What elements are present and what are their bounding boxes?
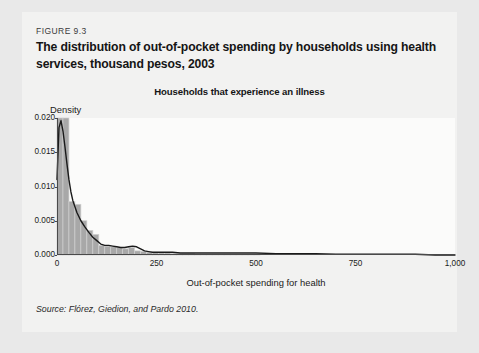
- x-tick-label: 500: [249, 259, 263, 268]
- y-axis-line: [57, 118, 58, 255]
- chart-subtitle: Households that experience an illness: [22, 86, 457, 97]
- y-tick-mark: [55, 152, 57, 153]
- y-axis-ticks: 0.0000.0050.0100.0150.020: [22, 12, 55, 332]
- y-tick-mark: [55, 255, 57, 256]
- x-axis-title: Out-of-pocket spending for health: [57, 277, 455, 288]
- y-tick-mark: [55, 187, 57, 188]
- y-tick-label: 0.000: [35, 250, 56, 259]
- density-curve: [57, 118, 455, 255]
- plot-area: [57, 118, 455, 255]
- y-tick-label: 0.015: [35, 147, 56, 156]
- y-tick-label: 0.010: [35, 182, 56, 191]
- y-tick-label: 0.020: [35, 113, 56, 122]
- x-tick-label: 1,000: [445, 259, 466, 268]
- density-curve-path: [57, 121, 455, 255]
- y-tick-mark: [55, 221, 57, 222]
- x-axis-line: [57, 254, 455, 255]
- chart-container: Households that experience an illness De…: [22, 12, 457, 332]
- x-tick-label: 0: [55, 259, 60, 268]
- y-tick-label: 0.005: [35, 216, 56, 225]
- x-tick-label: 750: [349, 259, 363, 268]
- figure-card: FIGURE 9.3 The distribution of out-of-po…: [22, 12, 457, 332]
- x-tick-label: 250: [150, 259, 164, 268]
- y-tick-mark: [55, 118, 57, 119]
- source-note: Source: Flórez, Giedion, and Pardo 2010.: [36, 304, 198, 314]
